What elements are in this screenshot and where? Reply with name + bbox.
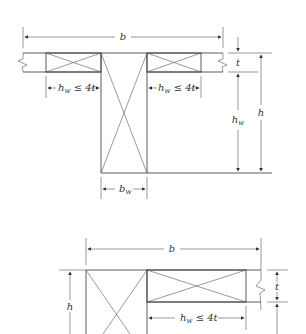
break-right-icon (218, 53, 227, 72)
b-label: b (120, 31, 126, 42)
svg-text:hw ≤ 4t: hw ≤ 4t (58, 82, 97, 95)
break-left-icon (18, 53, 27, 72)
beam-section-diagrams: b hw ≤ 4t hw ≤ 4t t (0, 0, 306, 334)
svg-text:bw: bw (119, 183, 131, 196)
svg-text:hw ≤ 4t: hw ≤ 4t (158, 82, 197, 95)
svg-text:hw: hw (232, 114, 244, 127)
svg-text:b: b (169, 243, 175, 254)
svg-text:t: t (275, 281, 280, 292)
t-beam-diagram: b hw ≤ 4t hw ≤ 4t t (18, 27, 272, 199)
t-label: t (236, 57, 241, 68)
break-icon (256, 262, 265, 310)
svg-text:hw ≤ 4t: hw ≤ 4t (180, 312, 219, 325)
l-beam-diagram: b hw ≤ 4t t h (59, 238, 288, 334)
h-label: h (258, 107, 264, 118)
svg-text:h: h (67, 301, 73, 312)
